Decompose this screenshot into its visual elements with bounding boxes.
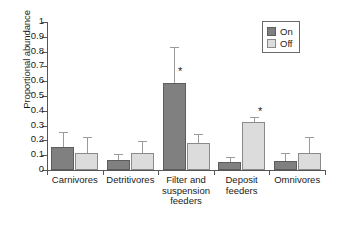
legend: On Off xyxy=(262,21,300,53)
y-tick-label: 0.7 xyxy=(31,59,44,70)
legend-label-off: Off xyxy=(280,38,293,49)
x-category-label-0: Carnivores xyxy=(47,175,103,186)
error-bar-stem-off-0 xyxy=(87,137,88,153)
x-category-label-2: Filter andsuspensionfeeders xyxy=(158,175,214,207)
x-axis-separator-tick xyxy=(325,170,326,175)
bar-off-1 xyxy=(131,153,154,170)
error-bar-cap-off-1 xyxy=(138,141,147,142)
bar-off-0 xyxy=(75,153,98,170)
x-category-label-line: feeders xyxy=(214,186,270,197)
y-tick-label: 0.4 xyxy=(31,104,44,115)
error-bar-stem-off-1 xyxy=(142,141,143,153)
y-tick-label: 1 xyxy=(39,15,44,26)
bar-off-2 xyxy=(187,143,210,170)
error-bar-cap-off-3 xyxy=(250,117,259,118)
bar-on-0 xyxy=(51,147,74,170)
y-tick-label: 0.9 xyxy=(31,30,44,41)
x-category-label-line: feeders xyxy=(158,196,214,207)
y-tick-label: 0.2 xyxy=(31,133,44,144)
x-category-label-1: Detritivores xyxy=(103,175,159,186)
legend-swatch-off-icon xyxy=(267,39,276,48)
error-bar-stem-on-4 xyxy=(285,153,286,161)
y-tick-label: 0.1 xyxy=(31,148,44,159)
x-category-label-line: Deposit xyxy=(214,175,270,186)
bar-on-1 xyxy=(107,160,130,170)
bar-off-4 xyxy=(298,153,321,170)
error-bar-cap-off-0 xyxy=(83,137,92,138)
legend-label-on: On xyxy=(280,26,293,37)
y-tick-label: 0.5 xyxy=(31,89,44,100)
y-tick-label: 0.6 xyxy=(31,74,44,85)
error-bar-stem-off-4 xyxy=(309,137,310,153)
error-bar-cap-on-3 xyxy=(226,157,235,158)
error-bar-cap-on-0 xyxy=(59,132,68,133)
x-axis-line xyxy=(47,170,325,171)
legend-item-on: On xyxy=(267,25,293,37)
significance-asterisk-off-3: * xyxy=(258,106,262,117)
bar-on-3 xyxy=(218,162,241,170)
bar-chart-figure: Proportional abundance 00.10.20.30.40.50… xyxy=(0,0,340,227)
error-bar-cap-on-1 xyxy=(114,154,123,155)
error-bar-cap-off-2 xyxy=(194,134,203,135)
error-bar-cap-on-4 xyxy=(281,153,290,154)
bar-on-2 xyxy=(163,83,186,170)
x-category-label-4: Omnivores xyxy=(269,175,325,186)
legend-swatch-on-icon xyxy=(267,27,276,36)
error-bar-cap-on-2 xyxy=(170,47,179,48)
x-category-label-line: Omnivores xyxy=(269,175,325,186)
y-tick-label: 0.8 xyxy=(31,45,44,56)
x-category-label-line: Filter and xyxy=(158,175,214,186)
error-bar-stem-on-2 xyxy=(174,47,175,83)
x-category-label-line: Detritivores xyxy=(103,175,159,186)
error-bar-stem-off-2 xyxy=(198,134,199,144)
x-category-label-3: Depositfeeders xyxy=(214,175,270,196)
y-axis-line xyxy=(47,22,48,171)
error-bar-stem-on-0 xyxy=(63,132,64,148)
significance-asterisk-on-2: * xyxy=(178,66,182,77)
y-tick-label: 0 xyxy=(39,163,44,174)
x-category-label-line: Carnivores xyxy=(47,175,103,186)
y-tick-label: 0.3 xyxy=(31,119,44,130)
bar-off-3 xyxy=(242,122,265,170)
legend-item-off: Off xyxy=(267,37,293,49)
error-bar-cap-off-4 xyxy=(305,137,314,138)
bar-on-4 xyxy=(274,161,297,170)
